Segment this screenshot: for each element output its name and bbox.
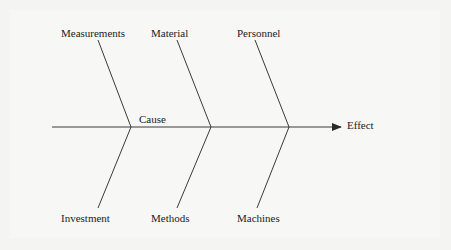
bone-personnel [255, 40, 289, 127]
category-label-measurements: Measurements [61, 27, 125, 39]
effect-label: Effect [347, 119, 374, 131]
bone-material [177, 40, 211, 127]
category-label-personnel: Personnel [237, 27, 280, 39]
category-label-machines: Machines [237, 212, 280, 224]
bone-machines [257, 127, 289, 208]
spine-label-cause: Cause [139, 113, 166, 125]
category-label-material: Material [151, 27, 188, 39]
bone-measurements [98, 40, 131, 127]
diagram-canvas: Measurements Material Personnel Cause Ef… [0, 0, 451, 250]
category-label-methods: Methods [151, 212, 190, 224]
category-label-investment: Investment [61, 212, 110, 224]
bone-investment [98, 127, 131, 208]
bone-methods [177, 127, 211, 208]
